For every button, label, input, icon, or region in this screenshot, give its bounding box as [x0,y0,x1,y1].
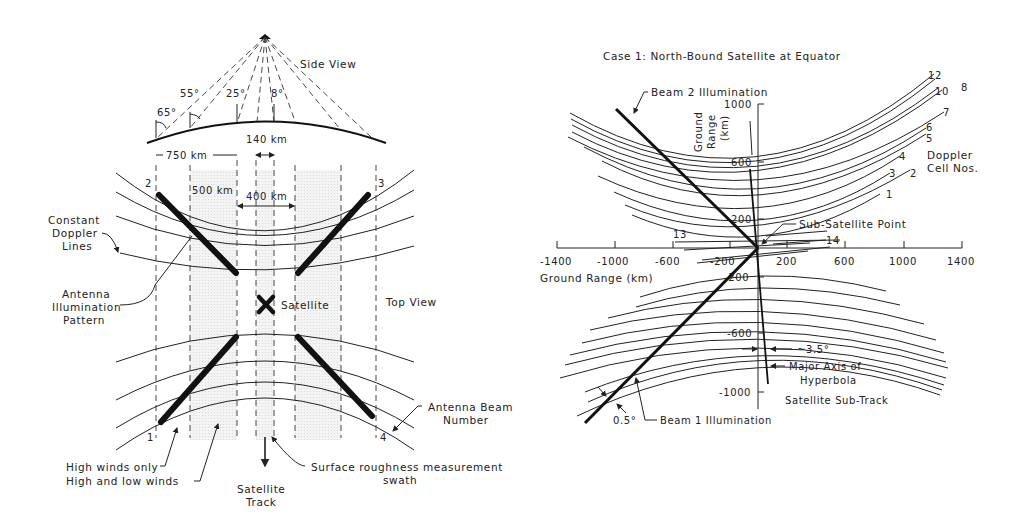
doppler-cell-label-2: Cell Nos. [927,162,978,174]
illumination-label-2: Illumination [52,301,121,313]
satellite-track-label-2: Track [245,496,277,508]
beam-number-3: 3 [378,178,385,189]
cell-number: 7 [943,107,950,118]
y-axis-label-2: Range [706,114,717,149]
illumination-label-3: Pattern [63,314,105,326]
angle-8: 8° [271,88,284,99]
beam-number-label-2: Number [443,414,489,426]
y-tick-label: 1000 [724,99,752,110]
x-axis-ticks [557,241,962,248]
angle-05-arrow-bottom [617,404,626,413]
beam-2-label: Beam 2 Illumination [651,86,768,98]
doppler-cells-lower [560,276,948,416]
surface-roughness-pointer [272,437,305,466]
x-tick-label: -200 [710,256,735,267]
satellite-label: Satellite [281,299,329,311]
top-view: Satellite Top View 2 3 1 4 500 km 400 km… [48,160,513,508]
illumination-label-1: Antenna [62,288,110,300]
angle-35-label: ~3.5° [797,344,829,355]
cell-number: 10 [935,86,949,97]
constant-doppler-label-1: Constant [48,214,100,226]
constant-doppler-label-3: Lines [62,240,92,252]
x-tick-label: 600 [834,256,855,267]
x-tick-label: 1400 [947,256,975,267]
doppler-cells-upper [568,74,944,237]
y-tick-label: 600 [731,157,752,168]
beam-2-illumination-line [616,109,758,248]
side-view-title: Side View [300,58,356,70]
x-tick-label: -1400 [540,256,572,267]
y-tick-label: -1000 [719,387,751,398]
constant-doppler-pointer [102,233,118,252]
cell-number: 14 [826,235,840,246]
beam-1-label: Beam 1 Illumination [660,415,772,426]
beam-number-label-1: Antenna Beam [428,401,513,413]
beam-1-pointer [636,378,657,420]
beam-number-2: 2 [145,178,152,189]
high-winds-only-label: High winds only [66,461,158,473]
angle-05-label: 0.5° [613,415,636,426]
angle-25: 25° [226,88,246,99]
y-tick-label: -600 [727,328,752,339]
satellite-track-label-1: Satellite [237,483,285,495]
side-view: Side View 65° 55° 25° 8° 140 km 750 km [147,34,386,161]
x-axis-label: Ground Range (km) [540,272,653,284]
cell-number: 8 [961,82,968,93]
right-figure-title: Case 1: North-Bound Satellite at Equator [603,50,841,62]
high-low-winds-label: High and low winds [66,475,179,487]
x-tick-label: 1000 [889,256,917,267]
cell-number: 1 [886,189,893,200]
x-tick-label: -600 [655,256,680,267]
surface-roughness-label-2: swath [383,474,417,486]
cell-number: 3 [889,168,896,179]
angle-05-arrow-top [598,387,606,396]
dim-750km: 750 km [166,150,207,161]
high-winds-only-pointer [160,428,177,466]
dim-140km: 140 km [246,134,287,145]
beam-2-pointer [634,92,648,113]
dim-400km: 400 km [246,191,287,202]
surface-roughness-label-1: Surface roughness measurement [311,461,503,473]
cell-number: 5 [926,133,933,144]
cell-number: 6 [926,122,933,133]
x-tick-label: -1000 [597,256,629,267]
angle-65: 65° [157,107,177,118]
y-axis-label-leader [750,121,752,155]
beam-number-4: 4 [380,432,387,443]
top-view-title: Top View [385,296,437,308]
cell-number: 2 [910,168,917,179]
sub-track-label: Satellite Sub-Track [785,395,888,406]
y-axis-label-3: (km) [719,115,730,141]
major-axis-label-1: Major Axis of [789,361,861,372]
cell-number: 4 [899,151,906,162]
right-figure: Case 1: North-Bound Satellite at Equator [540,50,978,426]
doppler-cell-label-1: Doppler [927,149,973,161]
cell-number: 13 [673,229,687,240]
angle-55: 55° [180,88,200,99]
sub-satellite-label: Sub-Satellite Point [799,218,907,230]
constant-doppler-label-2: Doppler [52,227,98,239]
left-figure: Side View 65° 55° 25° 8° 140 km 750 km [48,34,513,508]
y-axis-label-1: Ground [693,112,704,152]
dim-500km: 500 km [192,185,233,196]
beam-number-1: 1 [147,432,154,443]
major-axis-label-2: Hyperbola [800,375,857,386]
x-tick-label: 200 [776,256,797,267]
figure-canvas: Side View 65° 55° 25° 8° 140 km 750 km [0,0,1027,523]
cell-number: 12 [928,70,942,81]
y-axis-label: Ground Range (km) [693,112,730,152]
